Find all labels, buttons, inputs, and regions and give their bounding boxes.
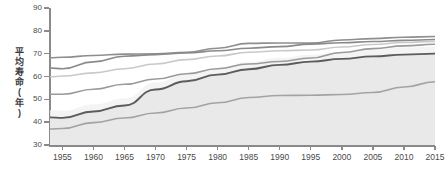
y-tick-label: 60	[20, 72, 42, 81]
y-tick-label: 70	[20, 49, 42, 58]
x-axis-line	[49, 145, 435, 147]
y-tick-mark	[44, 121, 49, 122]
area-fills	[50, 47, 435, 145]
y-tick-label: 50	[20, 94, 42, 103]
y-tick-label: 80	[20, 26, 42, 35]
y-tick-label: 30	[20, 140, 42, 149]
y-tick-mark	[44, 53, 49, 54]
x-tick-mark	[186, 146, 187, 150]
x-tick-mark	[217, 146, 218, 150]
x-tick-mark	[248, 146, 249, 150]
x-tick-mark	[310, 146, 311, 150]
x-tick-label: 2015	[415, 152, 445, 162]
y-tick-mark	[44, 30, 49, 31]
chart-svg	[50, 8, 435, 145]
chart-root: 平均寿命(年) 30405060708090 19551960196519701…	[0, 0, 445, 172]
y-tick-mark	[44, 7, 49, 8]
plot-area	[50, 8, 435, 145]
y-tick-mark	[44, 76, 49, 77]
x-tick-mark	[155, 146, 156, 150]
y-tick-mark	[44, 99, 49, 100]
x-tick-mark	[62, 146, 63, 150]
y-tick-mark	[44, 144, 49, 145]
x-tick-mark	[434, 146, 435, 150]
x-tick-mark	[372, 146, 373, 150]
x-tick-mark	[403, 146, 404, 150]
x-tick-mark	[279, 146, 280, 150]
y-tick-label: 90	[20, 3, 42, 12]
x-tick-mark	[341, 146, 342, 150]
y-tick-label: 40	[20, 117, 42, 126]
x-tick-mark	[124, 146, 125, 150]
x-tick-mark	[93, 146, 94, 150]
